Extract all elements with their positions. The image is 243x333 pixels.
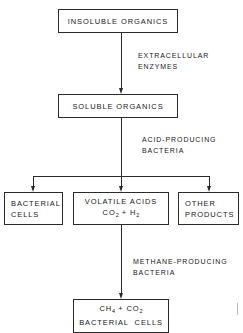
edge-line-insoluble-to-soluble — [121, 33, 122, 88]
node-soluble-organics-label: SOLUBLE ORGANICS — [72, 101, 163, 112]
node-insoluble-organics: INSOLUBLE ORGANICS — [58, 9, 178, 33]
branch-left-drop — [33, 176, 34, 186]
edge-label-methane-producing-bacteria: METHANE-PRODUCING BACTERIA — [133, 256, 228, 278]
node-insoluble-organics-label: INSOLUBLE ORGANICS — [68, 16, 168, 27]
volatile-acids-formula: CO2 + H2 — [103, 207, 140, 221]
edge-label-extracellular-enzymes: EXTRACELLULAR ENZYMES — [138, 50, 209, 72]
node-volatile-acids: VOLATILE ACIDS CO2 + H2 — [73, 192, 169, 225]
methane-formula: CH4 + CO2 — [99, 303, 142, 317]
branch-right-drop — [209, 176, 210, 186]
branch-line — [33, 176, 210, 177]
node-methane-co2-cells: CH4 + CO2 BACTERIAL CELLS — [73, 299, 169, 333]
edge-line-acids-to-methane — [121, 225, 122, 293]
node-bacterial-cells: BACTERIAL CELLS — [4, 192, 63, 225]
scan-artifact — [237, 303, 238, 315]
node-soluble-organics: SOLUBLE ORGANICS — [58, 94, 178, 118]
node-other-products: OTHER PRODUCTS — [178, 192, 239, 225]
edge-label-acid-producing-bacteria: ACID-PRODUCING BACTERIA — [142, 134, 216, 156]
